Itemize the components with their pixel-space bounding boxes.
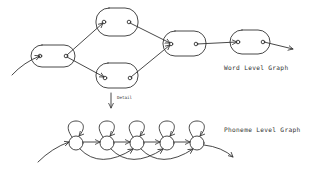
speech-recognition-graph-diagram: Word Level Graph Detail [0,0,315,173]
phoneme-node-3 [129,121,144,150]
phoneme-skip-3-5 [141,149,193,160]
word-edge-3-4 [131,45,170,77]
phoneme-level-graph-label: Phoneme Level Graph [224,126,300,134]
word-level-graph-label: Word Level Graph [224,64,288,72]
word-edge-1-3 [67,57,104,77]
detail-arrow-group: Detail [111,93,133,108]
word-level-graph: Word Level Graph [12,8,293,88]
phoneme-exit-arrow [204,145,233,157]
phoneme-node-2 [99,121,114,150]
word-node-3 [96,63,138,88]
word-edge-2-4 [130,23,170,43]
phoneme-node-4 [159,121,174,150]
word-edge-1-2 [67,23,103,55]
word-edge-4-5 [197,42,237,44]
word-node-2 [96,8,138,36]
phoneme-node-1 [68,121,83,150]
phoneme-entry-arrow [38,142,69,162]
phoneme-node-5 [189,121,204,150]
word-node-1 [31,45,75,67]
detail-label: Detail [117,95,133,100]
phoneme-level-graph: Phoneme Level Graph [38,121,300,162]
